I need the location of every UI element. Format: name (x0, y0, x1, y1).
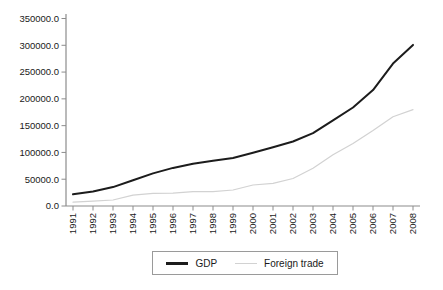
y-tick-label: 0.0 (46, 200, 59, 211)
y-tick-label: 50000.0 (25, 174, 59, 185)
gdp-line (73, 45, 413, 194)
x-tick-label: 1994 (127, 213, 138, 234)
legend-item-gdp: GDP (166, 258, 217, 269)
x-tick-label: 1999 (227, 213, 238, 234)
legend-item-foreign-trade: Foreign trade (235, 258, 323, 269)
x-tick-label: 1993 (107, 213, 118, 234)
chart-figure: 0.050000.0100000.0150000.0200000.0250000… (0, 0, 443, 290)
x-tick-label: 2001 (267, 213, 278, 234)
legend-label: GDP (195, 258, 217, 269)
y-tick-label: 150000.0 (19, 120, 59, 131)
x-tick-label: 2003 (307, 213, 318, 234)
x-tick-label: 1996 (167, 213, 178, 234)
legend-line-sample (235, 263, 257, 264)
x-tick-label: 2005 (347, 213, 358, 234)
x-tick-label: 1992 (87, 213, 98, 234)
x-tick-label: 2002 (287, 213, 298, 234)
x-tick-label: 1998 (207, 213, 218, 234)
y-tick-label: 350000.0 (19, 13, 59, 24)
x-tick-label: 2008 (407, 213, 418, 234)
x-tick-label: 2004 (327, 213, 338, 234)
line-chart: 0.050000.0100000.0150000.0200000.0250000… (0, 0, 443, 290)
y-tick-label: 250000.0 (19, 66, 59, 77)
legend-label: Foreign trade (264, 258, 323, 269)
y-tick-label: 300000.0 (19, 40, 59, 51)
x-tick-label: 1991 (67, 213, 78, 234)
legend-line-sample (166, 262, 188, 265)
x-tick-label: 2006 (367, 213, 378, 234)
y-tick-label: 100000.0 (19, 147, 59, 158)
y-tick-label: 200000.0 (19, 93, 59, 104)
x-tick-label: 2007 (387, 213, 398, 234)
x-tick-label: 2000 (247, 213, 258, 234)
x-tick-label: 1997 (187, 213, 198, 234)
chart-legend: GDPForeign trade (152, 251, 338, 275)
x-tick-label: 1995 (147, 213, 158, 234)
